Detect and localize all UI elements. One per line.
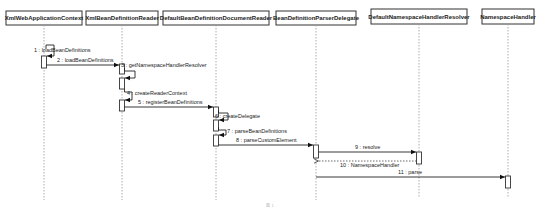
lifeline-xml-web-application-context: XmlWebApplicationContext	[5, 11, 84, 200]
message-8: 8 : parseCustomElement	[219, 137, 314, 145]
activation-bar	[417, 152, 422, 164]
message-1: 1 : loadBeanDefinitions	[34, 45, 91, 56]
activation-bar	[120, 100, 125, 111]
message-11: 11 : parse	[316, 169, 505, 177]
message-2: 2 : loadBeanDefinitions	[47, 57, 120, 65]
message-label: 3 : getNamespaceHandlerResolver	[121, 62, 207, 68]
message-label: 5 : registerBeanDefinitions	[138, 99, 203, 105]
lifeline-title: XmlBeanDefinitionReader	[85, 15, 159, 21]
lifeline-default-bean-definition-document-reader: DefaultBeanDefinitionDocumentReader	[160, 11, 273, 200]
lifeline-title: NamespaceHandler	[480, 14, 536, 20]
message-5: 5 : registerBeanDefinitions	[125, 99, 214, 107]
message-3: 3 : getNamespaceHandlerResolver	[121, 62, 207, 78]
message-6: 6 : createDelegate	[215, 110, 260, 120]
lifeline-title: XmlWebApplicationContext	[5, 15, 84, 21]
message-7: 7 : parseBeanDefinitions	[219, 127, 288, 135]
message-label: 1 : loadBeanDefinitions	[34, 47, 91, 53]
sequence-diagram: XmlWebApplicationContext XmlBeanDefiniti…	[0, 0, 547, 212]
message-label: 10 : NamespaceHandler	[340, 162, 399, 168]
message-label: 7 : parseBeanDefinitions	[227, 128, 287, 134]
message-label: 4 : createReaderContext	[127, 90, 187, 96]
activation-bar	[214, 135, 219, 146]
lifeline-bean-definition-parser-delegate: BeanDefinitionParserDelegate	[273, 11, 360, 200]
figure-caption: 图 1	[266, 202, 274, 208]
message-9: 9 : resolve	[319, 144, 417, 152]
activation-bar	[314, 145, 319, 158]
message-label: 11 : parse	[398, 169, 422, 175]
activation-bar	[120, 78, 125, 89]
lifeline-title: BeanDefinitionParserDelegate	[273, 15, 360, 21]
activation-bar	[214, 120, 219, 131]
message-label: 6 : createDelegate	[215, 113, 260, 119]
lifeline-title: DefaultNamespaceHandlerResolver	[368, 14, 470, 20]
activation-bar	[506, 176, 511, 188]
message-label: 2 : loadBeanDefinitions	[57, 57, 114, 63]
message-10-return: 10 : NamespaceHandler	[319, 161, 417, 168]
lifeline-title: DefaultBeanDefinitionDocumentReader	[160, 15, 273, 21]
message-label: 8 : parseCustomElement	[236, 137, 297, 143]
lifeline-namespace-handler: NamespaceHandler	[480, 9, 536, 198]
message-label: 9 : resolve	[355, 144, 380, 150]
activation-bar	[42, 56, 47, 68]
